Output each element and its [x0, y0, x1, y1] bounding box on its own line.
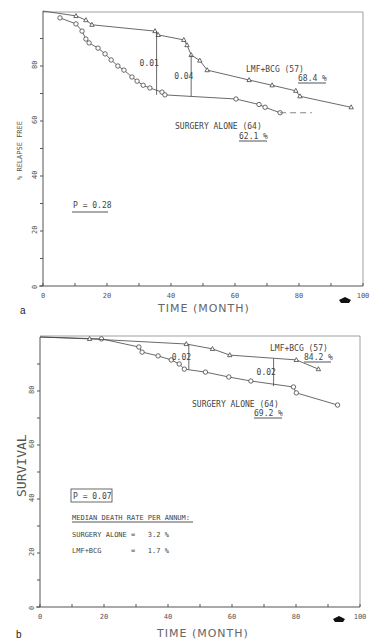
difference-label: 0.02 — [257, 368, 276, 377]
legend-lmf-bcg-percent: 68.4 % — [298, 74, 327, 83]
circle-marker-icon — [148, 86, 152, 90]
x-tick-label: 100 — [357, 292, 370, 300]
y-axis: 020406080 — [31, 11, 43, 289]
y-tick-label: 0 — [28, 606, 36, 610]
x-tick-label: 60 — [228, 613, 236, 621]
y-tick-label: 80 — [28, 386, 36, 394]
circle-marker-icon — [99, 337, 103, 341]
circle-marker-icon — [87, 41, 91, 45]
chart-panel-b: 020406080 020406080100 0.020.02 SURVIVAL… — [14, 336, 366, 640]
circle-marker-icon — [263, 105, 267, 109]
x-axis-label: TIME (MONTH) — [156, 627, 249, 640]
x-tick-label: 60 — [231, 292, 239, 300]
triangle-marker-icon — [84, 18, 88, 22]
y-axis: 020406080 — [28, 337, 40, 610]
legend-lmf-bcg: LMF+BCG (57) — [270, 344, 328, 353]
x-tick-label: 0 — [41, 292, 45, 300]
circle-marker-icon — [234, 97, 238, 101]
circle-marker-icon — [294, 391, 298, 395]
circle-marker-icon — [141, 83, 145, 87]
y-tick-label: 60 — [31, 116, 39, 124]
p-value: P = 0.28 — [73, 201, 112, 210]
triangle-marker-icon — [270, 83, 274, 87]
x-tick-label: 20 — [100, 613, 108, 621]
x-axis: 020406080100 — [36, 604, 366, 621]
x-tick-label: 20 — [103, 292, 111, 300]
circle-marker-icon — [227, 375, 231, 379]
triangle-marker-icon — [294, 358, 298, 362]
circle-marker-icon — [182, 367, 186, 371]
triangle-marker-icon — [294, 88, 298, 92]
triangle-marker-icon — [87, 336, 91, 340]
y-tick-label: 40 — [28, 494, 36, 502]
circle-marker-icon — [291, 385, 295, 389]
difference-label: 0.02 — [172, 353, 191, 362]
triangle-marker-icon — [198, 58, 202, 62]
triangle-marker-icon — [74, 14, 78, 18]
circle-marker-icon — [203, 370, 207, 374]
circle-marker-icon — [103, 52, 107, 56]
legend-surgery-alone: SURGERY ALONE (64) — [192, 400, 279, 409]
x-tick-label: 0 — [38, 613, 42, 621]
circle-marker-icon — [177, 362, 181, 366]
y-tick-label: 20 — [28, 548, 36, 556]
x-tick-label: 80 — [292, 613, 300, 621]
circle-marker-icon — [96, 46, 100, 50]
legend-lmf-bcg: LMF+BCG (57) — [246, 65, 304, 74]
circle-marker-icon — [122, 68, 126, 72]
y-tick-label: 80 — [31, 61, 39, 69]
triangle-marker-icon — [247, 78, 251, 82]
median-lmf-bcg: LMF+BCG = 1.7 % — [72, 547, 170, 555]
y-axis-label: SURVIVAL — [14, 434, 29, 497]
arrow-marker-icon — [339, 297, 351, 303]
legend-surgery-alone-percent: 69.2 % — [254, 409, 283, 418]
figure: 020406080 020406080100 0.010.04 % RELAPS… — [0, 0, 385, 643]
triangle-marker-icon — [90, 22, 94, 26]
circle-marker-icon — [257, 102, 261, 106]
y-tick-label: 0 — [31, 285, 39, 289]
circle-marker-icon — [163, 93, 167, 97]
difference-label: 0.01 — [140, 59, 159, 68]
difference-markers: 0.020.02 — [172, 345, 276, 387]
x-axis-label: TIME (MONTH) — [157, 302, 250, 315]
panel-label: b — [16, 629, 22, 640]
chart-panel-a: 020406080 020406080100 0.010.04 % RELAPS… — [16, 11, 369, 316]
circle-marker-icon — [74, 22, 78, 26]
triangle-marker-icon — [210, 346, 214, 350]
circle-marker-icon — [116, 64, 120, 68]
panel-label: a — [20, 305, 26, 316]
triangle-marker-icon — [182, 37, 186, 41]
circle-marker-icon — [109, 58, 113, 62]
circle-marker-icon — [135, 79, 139, 83]
p-value: P = 0.07 — [73, 492, 112, 501]
circle-marker-icon — [80, 29, 84, 33]
y-tick-label: 40 — [31, 171, 39, 179]
circle-marker-icon — [140, 350, 144, 354]
median-surgery-alone: SURGERY ALONE = 3.2 % — [72, 531, 170, 539]
x-tick-label: 40 — [164, 613, 172, 621]
circle-marker-icon — [137, 345, 141, 349]
arrow-marker-icon — [333, 616, 345, 622]
plot-frame — [43, 12, 363, 286]
legend-surgery-alone: SURGERY ALONE (64) — [175, 122, 262, 131]
circle-marker-icon — [84, 37, 88, 41]
triangle-marker-icon — [228, 353, 232, 357]
legend-surgery-alone-percent: 62.1 % — [239, 132, 268, 141]
series-lmf-bcg — [43, 11, 353, 109]
circle-marker-icon — [335, 403, 339, 407]
x-tick-label: 80 — [295, 292, 303, 300]
median-death-rate-title: MEDIAN DEATH RATE PER ANNUM: — [72, 514, 190, 522]
circle-marker-icon — [130, 75, 134, 79]
triangle-marker-icon — [184, 342, 188, 346]
y-tick-label: 20 — [31, 226, 39, 234]
x-tick-label: 40 — [167, 292, 175, 300]
difference-label: 0.04 — [174, 72, 193, 81]
circle-marker-icon — [249, 379, 253, 383]
x-axis: 020406080100 — [39, 283, 369, 300]
triangle-marker-icon — [316, 367, 320, 371]
y-tick-label: 60 — [28, 440, 36, 448]
plot-frame — [40, 336, 360, 607]
y-axis-label: % RELAPSE FREE — [16, 121, 24, 180]
triangle-marker-icon — [349, 105, 353, 109]
x-tick-label: 100 — [354, 613, 367, 621]
